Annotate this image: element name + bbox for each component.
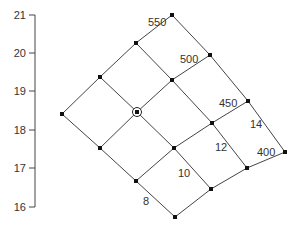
isoline-row bbox=[175, 152, 285, 217]
axis-tick-label: 18 bbox=[14, 124, 26, 136]
grid-node bbox=[170, 78, 174, 82]
grid-node bbox=[60, 112, 64, 116]
grid-node bbox=[134, 41, 138, 45]
axis-tick-label: 19 bbox=[14, 85, 26, 97]
grid-nodes bbox=[60, 13, 287, 219]
axis-tick-label: 20 bbox=[14, 47, 26, 59]
grid-node bbox=[208, 53, 212, 57]
grid-node bbox=[98, 146, 102, 150]
contour-label: 400 bbox=[257, 146, 275, 158]
grid-node bbox=[173, 215, 177, 219]
highlighted-node bbox=[135, 110, 139, 114]
grid-node bbox=[246, 99, 250, 103]
isoline-col bbox=[100, 77, 211, 189]
diagram-canvas: 212019181716 5505004504008101214 bbox=[0, 0, 301, 228]
grid-node bbox=[172, 146, 176, 150]
grid-node bbox=[245, 166, 249, 170]
grid-lines bbox=[62, 15, 285, 217]
contour-label: 14 bbox=[250, 118, 262, 130]
grid-node bbox=[134, 179, 138, 183]
isoline-col bbox=[172, 15, 285, 152]
isoline-row bbox=[100, 55, 210, 148]
grid-node bbox=[98, 75, 102, 79]
contour-label: 12 bbox=[215, 141, 227, 153]
grid-node bbox=[170, 13, 174, 17]
grid-node bbox=[209, 187, 213, 191]
contour-label: 450 bbox=[219, 97, 237, 109]
contour-label: 550 bbox=[148, 16, 166, 28]
axis-tick-label: 16 bbox=[14, 201, 26, 213]
contour-label: 500 bbox=[180, 53, 198, 65]
axis-tick-label: 21 bbox=[14, 9, 26, 21]
grid-node bbox=[210, 121, 214, 125]
grid-diagram: 212019181716 5505004504008101214 bbox=[0, 0, 301, 228]
contour-label: 8 bbox=[143, 195, 149, 207]
grid-node bbox=[283, 150, 287, 154]
isoline-row bbox=[62, 15, 172, 114]
axis-tick-label: 17 bbox=[14, 162, 26, 174]
isoline-row bbox=[136, 101, 248, 181]
y-axis: 212019181716 bbox=[14, 9, 35, 213]
contour-label: 10 bbox=[178, 167, 190, 179]
